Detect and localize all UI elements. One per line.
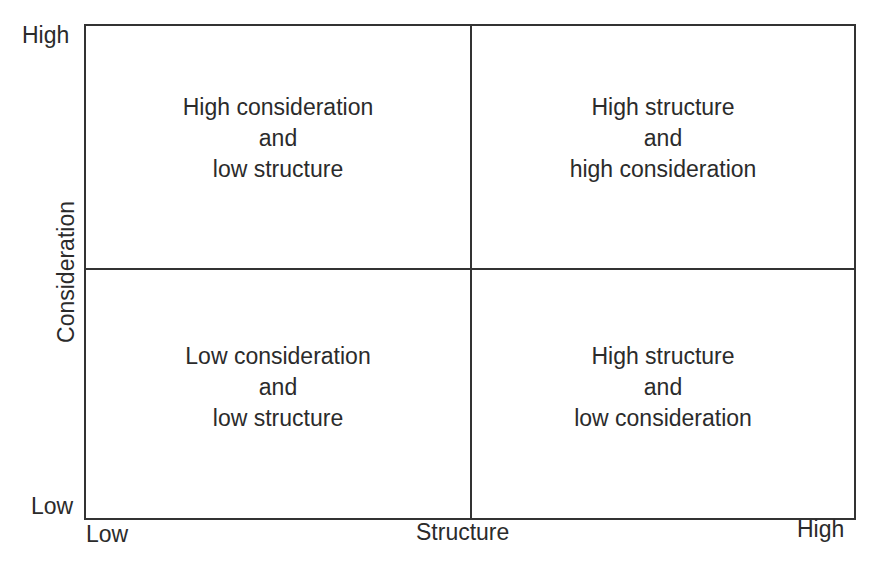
quadrant-high-consideration-low-structure: High consideration and low structure: [86, 26, 470, 268]
quadrant-line: and: [570, 123, 757, 154]
quadrant-line: and: [183, 123, 374, 154]
quadrant-line: low consideration: [574, 403, 752, 434]
y-axis-title: Consideration: [53, 201, 79, 343]
x-axis-title: Structure: [416, 519, 509, 545]
quadrant-label: High structure and high consideration: [570, 92, 757, 185]
quadrant-line: High structure: [574, 341, 752, 372]
x-axis-high-label: High: [797, 516, 844, 542]
x-axis-low-label: Low: [86, 521, 128, 547]
quadrant-label: Low consideration and low structure: [185, 341, 370, 434]
quadrant-line: High structure: [570, 92, 757, 123]
quadrant-high-structure-high-consideration: High structure and high consideration: [472, 26, 854, 268]
quadrant-line: high consideration: [570, 154, 757, 185]
quadrant-line: low structure: [183, 154, 374, 185]
quadrant-label: High consideration and low structure: [183, 92, 374, 185]
quadrant-line: and: [185, 372, 370, 403]
y-axis-high-label: High: [22, 22, 69, 48]
y-axis-low-label: Low: [31, 493, 73, 519]
quadrant-line: and: [574, 372, 752, 403]
quadrant-line: Low consideration: [185, 341, 370, 372]
quadrant-low-consideration-low-structure: Low consideration and low structure: [86, 270, 470, 516]
quadrant-label: High structure and low consideration: [574, 341, 752, 434]
quadrant-line: low structure: [185, 403, 370, 434]
quadrant-line: High consideration: [183, 92, 374, 123]
quadrant-high-structure-low-consideration: High structure and low consideration: [472, 270, 854, 516]
